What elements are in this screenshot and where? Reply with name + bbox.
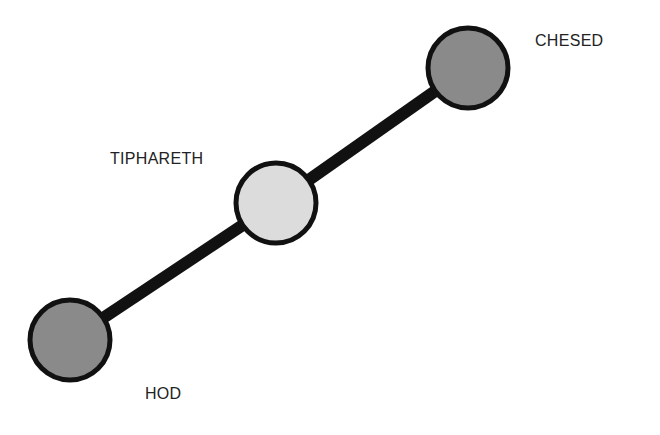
node-chesed [428, 28, 508, 108]
label-tiphareth: TIPHARETH [110, 150, 203, 168]
node-hod [30, 300, 110, 380]
label-chesed: CHESED [535, 32, 603, 50]
label-hod: HOD [145, 385, 181, 403]
node-tiphareth [236, 163, 316, 243]
diagram-canvas [0, 0, 660, 435]
